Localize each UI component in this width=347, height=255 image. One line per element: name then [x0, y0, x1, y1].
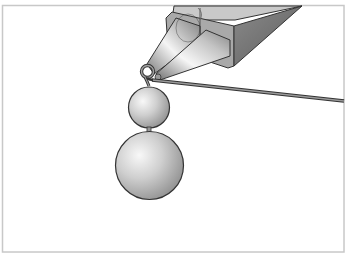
small-bead-icon: [129, 87, 170, 128]
illustration-frame: [0, 0, 347, 255]
pliers-bead-illustration: [0, 0, 347, 255]
large-bead-icon: [116, 132, 184, 200]
